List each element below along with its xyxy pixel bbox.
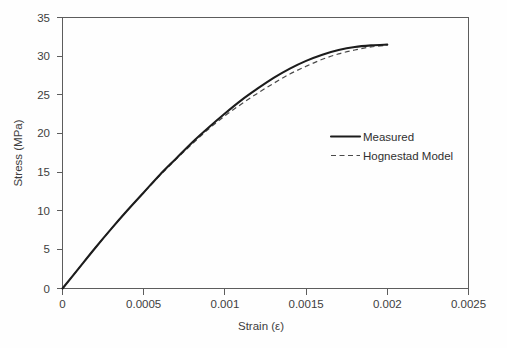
x-tick-label: 0.0005: [126, 298, 161, 310]
y-tick-label: 10: [37, 205, 50, 217]
chart-figure: 35 30 25 20 15 10 5 0 0 0.0005 0.001 0.0…: [0, 0, 507, 348]
x-tick-label: 0.001: [211, 298, 240, 310]
legend-label-hognestad-model: Hognestad Model: [363, 150, 453, 162]
x-tick-label: 0: [59, 298, 65, 310]
y-axis-title: Stress (MPa): [12, 119, 24, 186]
y-tick-label: 30: [37, 50, 50, 62]
y-tick-label: 15: [37, 166, 50, 178]
y-tick-label: 5: [44, 243, 50, 255]
y-tick-label: 20: [37, 127, 50, 139]
y-tick-label: 25: [37, 89, 50, 101]
y-tick-label: 35: [37, 12, 50, 24]
legend-label-measured: Measured: [363, 131, 414, 143]
x-tick-label: 0.002: [373, 298, 402, 310]
y-tick-label: 0: [44, 283, 50, 295]
chart-background: [0, 0, 507, 348]
x-tick-label: 0.0025: [451, 298, 486, 310]
x-axis-title: Strain (ε): [238, 320, 284, 332]
x-tick-label: 0.0015: [289, 298, 324, 310]
stress-strain-chart: 35 30 25 20 15 10 5 0 0 0.0005 0.001 0.0…: [0, 0, 507, 348]
